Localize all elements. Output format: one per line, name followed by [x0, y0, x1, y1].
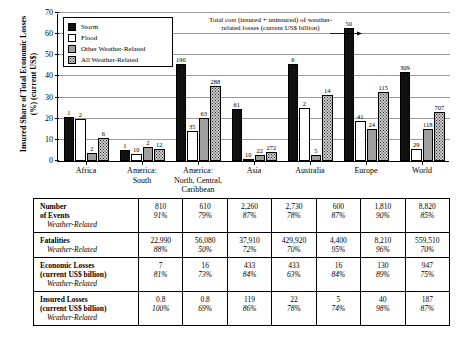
table-cell-percent: 50%	[184, 245, 225, 254]
bar-all[interactable]	[322, 95, 333, 161]
x-axis-tick	[366, 161, 367, 165]
table-row-label-line2: (current US$ billion)	[40, 270, 136, 279]
table-cell: 94775%	[405, 258, 449, 292]
bar-value-label: 190	[173, 56, 190, 63]
table-cell-percent: 91%	[140, 211, 181, 220]
y-axis-tick-label: 10	[35, 136, 53, 144]
bar-all[interactable]	[378, 92, 389, 161]
bar-group: 30929118707	[394, 13, 450, 161]
table-cell-value: 22,990	[140, 236, 181, 245]
table-row-sublabel: Weather-Related	[40, 279, 136, 288]
bar-flood[interactable]	[411, 149, 422, 161]
bar-other[interactable]	[87, 153, 98, 161]
x-axis-tick	[142, 161, 143, 165]
bar-flood[interactable]	[243, 159, 254, 161]
table-row-label-line1: Number	[40, 202, 136, 211]
table-cell: 2,26087%	[227, 199, 271, 233]
bar-group: 611022272	[226, 13, 282, 161]
table-cell-value: 5	[318, 295, 359, 304]
bar-storm[interactable]	[344, 28, 355, 161]
table-cell: 18787%	[405, 292, 449, 326]
legend-swatch-flood-icon	[68, 34, 76, 42]
table-cell: 43384%	[227, 258, 271, 292]
table-cell-percent: 69%	[184, 304, 225, 313]
table-row-label: Economic Losses(current US$ billion)Weat…	[34, 258, 139, 292]
bar-all[interactable]	[434, 112, 445, 161]
table-cell-percent: 100%	[140, 304, 181, 313]
legend-item-flood[interactable]: Flood	[68, 32, 168, 43]
bar-other[interactable]	[311, 155, 322, 161]
table-cell-percent: 75%	[407, 270, 448, 279]
legend-swatch-all-icon	[68, 56, 76, 64]
table-cell: 0.8100%	[139, 292, 183, 326]
x-axis-tick	[422, 161, 423, 165]
table-cell: 1684%	[316, 258, 360, 292]
table-cell-value: 8,210	[362, 236, 403, 245]
table-cell-value: 187	[407, 295, 448, 304]
table-row: Numberof EventsWeather-Related81091%6107…	[34, 199, 450, 233]
table-cell-value: 2,730	[273, 202, 314, 211]
x-axis-tick	[86, 161, 87, 165]
table-cell: 8,82085%	[405, 199, 449, 233]
table-cell: 13089%	[361, 258, 405, 292]
bar-all[interactable]	[154, 149, 165, 161]
bar-all[interactable]	[266, 152, 277, 162]
bar-value-label: 50	[341, 20, 358, 27]
table-cell-value: 433	[273, 261, 314, 270]
table-cell: 429,92070%	[272, 233, 316, 258]
table-row-label-line2: (current US$ billion)	[40, 304, 136, 313]
y-axis-tick-label: 50	[35, 51, 53, 59]
table-cell-percent: 78%	[273, 211, 314, 220]
bar-value-label: 309	[397, 64, 414, 71]
legend-item-all[interactable]: All Weather-Related	[68, 54, 168, 65]
bar-other[interactable]	[199, 118, 210, 161]
legend-label: Flood	[81, 34, 97, 42]
bar-other[interactable]	[255, 155, 266, 161]
bar-flood[interactable]	[187, 131, 198, 161]
bar-other[interactable]	[423, 129, 434, 161]
table-row-label: Numberof EventsWeather-Related	[34, 199, 139, 233]
table-cell-value: 130	[362, 261, 403, 270]
bar-value-label: 6	[95, 130, 112, 137]
table-cell: 22,99088%	[139, 233, 183, 258]
x-axis-tick	[310, 161, 311, 165]
table-cell-value: 37,910	[229, 236, 270, 245]
bar-flood[interactable]	[131, 154, 142, 161]
table-cell-percent: 98%	[362, 304, 403, 313]
y-axis-tick-label: 20	[35, 115, 53, 123]
legend-item-other[interactable]: Other Weather-Related	[68, 43, 168, 54]
bar-value-label: 2	[296, 100, 313, 107]
bar-all[interactable]	[98, 138, 109, 161]
table-cell: 60087%	[316, 199, 360, 233]
bar-value-label: 272	[263, 144, 280, 151]
bar-storm[interactable]	[176, 64, 187, 161]
bar-value-label: 707	[431, 104, 448, 111]
table-cell-percent: 96%	[362, 245, 403, 254]
table-cell: 11986%	[227, 292, 271, 326]
bar-storm[interactable]	[288, 64, 299, 161]
bar-other[interactable]	[143, 147, 154, 161]
table-cell-percent: 87%	[407, 304, 448, 313]
legend-label: Storm	[81, 23, 98, 31]
table-cell-percent: 90%	[362, 211, 403, 220]
y-axis-tick-label: 0	[35, 157, 53, 165]
table-row: FatalitiesWeather-Related22,99088%56,080…	[34, 233, 450, 258]
table-cell-percent: 84%	[318, 270, 359, 279]
table-cell-value: 119	[229, 295, 270, 304]
bar-value-label: 6	[285, 56, 302, 63]
table-cell-percent: 95%	[318, 245, 359, 254]
table-cell-value: 433	[229, 261, 270, 270]
legend-swatch-other-icon	[68, 45, 76, 53]
table-cell-value: 56,080	[184, 236, 225, 245]
y-axis-tick-label: 30	[35, 94, 53, 102]
table-row-label: FatalitiesWeather-Related	[34, 233, 139, 258]
bar-other[interactable]	[367, 129, 378, 161]
y-axis-tick-label: 60	[35, 30, 53, 38]
table-cell: 43363%	[272, 258, 316, 292]
bar-all[interactable]	[210, 86, 221, 161]
legend-item-storm[interactable]: Storm	[68, 21, 168, 32]
bar-flood[interactable]	[75, 119, 86, 161]
table-cell-percent: 79%	[184, 211, 225, 220]
bar-storm[interactable]	[64, 117, 75, 161]
table-cell-value: 2,260	[229, 202, 270, 211]
